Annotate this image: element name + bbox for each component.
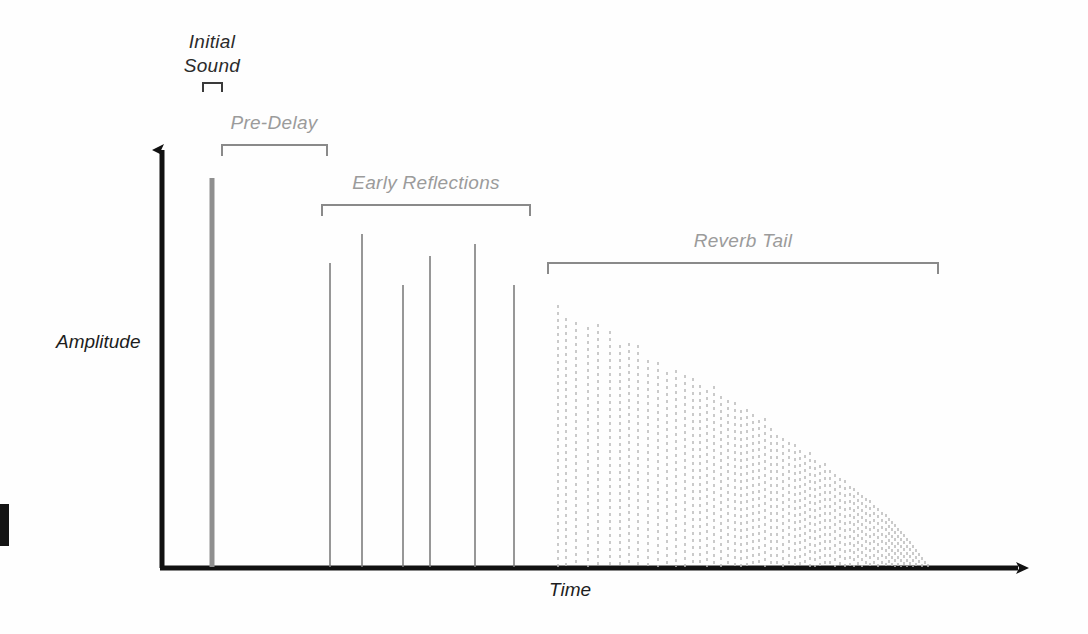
y-axis-label: Amplitude	[55, 331, 141, 352]
early-reflection-impulses	[330, 234, 514, 567]
pre-delay-label: Pre-Delay	[230, 112, 318, 133]
x-axis-label: Time	[549, 579, 591, 600]
initial-sound-label-line1: Initial	[189, 31, 236, 52]
early-reflections-bracket	[322, 205, 530, 216]
axes-group	[160, 150, 1018, 568]
initial-sound-bracket	[203, 83, 222, 92]
early-reflections-label: Early Reflections	[352, 172, 500, 193]
left-edge-artifact	[0, 504, 9, 546]
reverb-envelope-diagram: Amplitude Time Initial Sound Pre-Delay E…	[0, 0, 1088, 634]
segment-early-reflections: Early Reflections	[322, 172, 530, 567]
reverb-tail-bracket	[548, 263, 938, 274]
diagram-canvas: Amplitude Time Initial Sound Pre-Delay E…	[0, 0, 1088, 634]
reverb-tail-impulses	[558, 305, 928, 567]
segment-reverb-tail: Reverb Tail	[548, 230, 938, 567]
pre-delay-bracket	[222, 145, 327, 156]
reverb-tail-label: Reverb Tail	[694, 230, 793, 251]
segment-pre-delay: Pre-Delay	[222, 112, 327, 156]
initial-sound-label-line2: Sound	[184, 55, 242, 76]
